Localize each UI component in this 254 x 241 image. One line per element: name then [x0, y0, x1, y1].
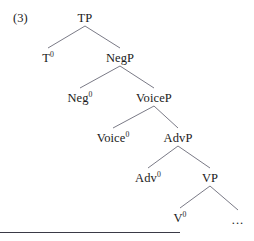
branch-tp-to-negp	[85, 26, 120, 48]
node-neg0-superscript: 0	[89, 90, 93, 99]
node-vp: VP	[202, 172, 218, 185]
branch-vp-to-v0	[180, 186, 210, 208]
tree-branch-lines	[0, 0, 254, 241]
node-t0: T0	[42, 52, 54, 65]
footer-rule	[0, 232, 180, 233]
node-advp: AdvP	[164, 132, 193, 145]
node-voice0: Voice0	[97, 132, 130, 145]
node-ellipsis: ...	[232, 214, 244, 227]
branch-advp-to-adv0	[148, 146, 178, 168]
node-negp: NegP	[106, 52, 134, 65]
node-tp: TP	[78, 12, 93, 25]
node-v0: V0	[173, 212, 186, 225]
node-t0-superscript: 0	[50, 50, 54, 59]
branch-advp-to-vp	[178, 146, 210, 168]
branch-tp-to-t0	[48, 26, 85, 48]
node-v0-superscript: 0	[183, 210, 187, 219]
branch-voicep-to-advp	[154, 106, 178, 128]
branch-negp-to-neg0	[80, 66, 120, 88]
syntax-tree-figure: (3) TPT0NegPNeg0VoicePVoice0AdvPAdv0VPV0…	[0, 0, 254, 241]
branch-negp-to-voicep	[120, 66, 154, 88]
node-adv0-superscript: 0	[157, 170, 161, 179]
branch-voicep-to-voice0	[113, 106, 154, 128]
node-neg0: Neg0	[67, 92, 92, 105]
node-adv0: Adv0	[135, 172, 161, 185]
node-voicep: VoiceP	[136, 92, 172, 105]
branch-vp-to-dots	[210, 186, 238, 210]
node-voice0-superscript: 0	[125, 130, 129, 139]
